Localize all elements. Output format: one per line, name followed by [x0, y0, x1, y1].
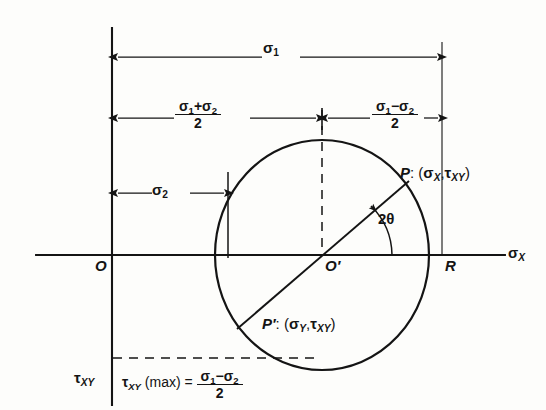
- close-paren: ): [330, 315, 335, 332]
- origin-label: O: [95, 258, 107, 273]
- right-intercept-label: R: [445, 258, 456, 273]
- sigma2-subscript: 2: [162, 189, 168, 200]
- fraction-denominator: 2: [175, 115, 221, 130]
- point-p-prime-marker: P′: [262, 315, 276, 332]
- sigma-subscript: X: [434, 172, 441, 183]
- equation-tau-max: τXY (max) = σ1−σ2 2: [122, 368, 243, 399]
- tau-subscript: XY: [81, 377, 95, 388]
- fraction-denominator: 2: [372, 115, 418, 130]
- axis-label-sigma-x: σX: [508, 245, 525, 260]
- dimension-label-sigma1: σ1: [263, 40, 279, 55]
- sigma1-symbol: σ: [263, 39, 273, 56]
- dimension-label-sigma2: σ2: [152, 182, 168, 197]
- fraction-numerator: σ1+σ2: [175, 99, 221, 115]
- fraction-radius: σ1−σ2 2: [372, 99, 418, 130]
- point-label-p-prime: P′: (σY,τXY): [262, 316, 335, 331]
- mohr-circle-figure: σ1 σ1+σ2 2 σ1−σ2 2 σ2 P: (σX,τXY) P′: (σ…: [0, 0, 546, 410]
- axis-label-tau-xy: τXY: [74, 370, 94, 385]
- fraction-numerator: σ1−σ2: [372, 99, 418, 115]
- equals-sign: =: [185, 374, 193, 390]
- sigma2-subscript: 2: [212, 105, 217, 116]
- dimension-label-mean-stress: σ1+σ2 2: [175, 98, 221, 129]
- sigma1-subscript: 1: [189, 105, 194, 116]
- max-qualifier: (max): [145, 374, 181, 390]
- fraction-numerator: σ1−σ2: [197, 369, 243, 385]
- point-p-marker: P: [400, 164, 410, 181]
- tau-subscript: XY: [128, 381, 141, 392]
- sigma2-symbol: σ: [202, 98, 212, 114]
- sigma-symbol: σ: [508, 244, 518, 261]
- sigma-subscript: Y: [299, 323, 306, 334]
- minus-operator: −: [215, 368, 223, 384]
- tau-symbol: τ: [310, 315, 317, 332]
- sigma1-subscript: 1: [273, 47, 279, 58]
- sigma1-symbol: σ: [201, 368, 211, 384]
- extension-lines: [228, 42, 442, 258]
- point-label-p: P: (σX,τXY): [400, 165, 470, 180]
- fraction-denominator: 2: [197, 385, 243, 400]
- two-theta-text: 2θ: [378, 210, 394, 227]
- sigma1-subscript: 1: [210, 375, 215, 386]
- angle-label-two-theta: 2θ: [378, 211, 394, 226]
- sigma2-symbol: σ: [152, 181, 162, 198]
- fraction-mean-stress: σ1+σ2 2: [175, 99, 221, 130]
- plus-operator: +: [194, 98, 202, 114]
- close-paren: ): [465, 164, 470, 181]
- dimension-label-radius: σ1−σ2 2: [372, 98, 418, 129]
- sigma2-subscript: 2: [233, 375, 238, 386]
- sigma-subscript: X: [518, 252, 525, 263]
- sigma1-symbol: σ: [376, 98, 386, 114]
- point-p-separator: : (: [410, 164, 423, 181]
- sigma2-subscript: 2: [409, 105, 414, 116]
- circle-center-label: O′: [325, 258, 340, 273]
- sigma2-symbol: σ: [224, 368, 234, 384]
- axis-group: [36, 28, 505, 405]
- tau-subscript: XY: [451, 172, 465, 183]
- sigma-symbol: σ: [289, 315, 299, 332]
- sigma2-symbol: σ: [399, 98, 409, 114]
- fraction-tau-max: σ1−σ2 2: [197, 369, 243, 400]
- tau-symbol: τ: [74, 369, 81, 386]
- point-p-prime-separator: : (: [276, 315, 289, 332]
- tau-subscript: XY: [317, 323, 331, 334]
- sigma-symbol: σ: [423, 164, 433, 181]
- mohr-circle-drawing: [0, 0, 546, 410]
- sigma1-subscript: 1: [386, 105, 391, 116]
- sigma1-symbol: σ: [179, 98, 189, 114]
- minus-operator: −: [391, 98, 399, 114]
